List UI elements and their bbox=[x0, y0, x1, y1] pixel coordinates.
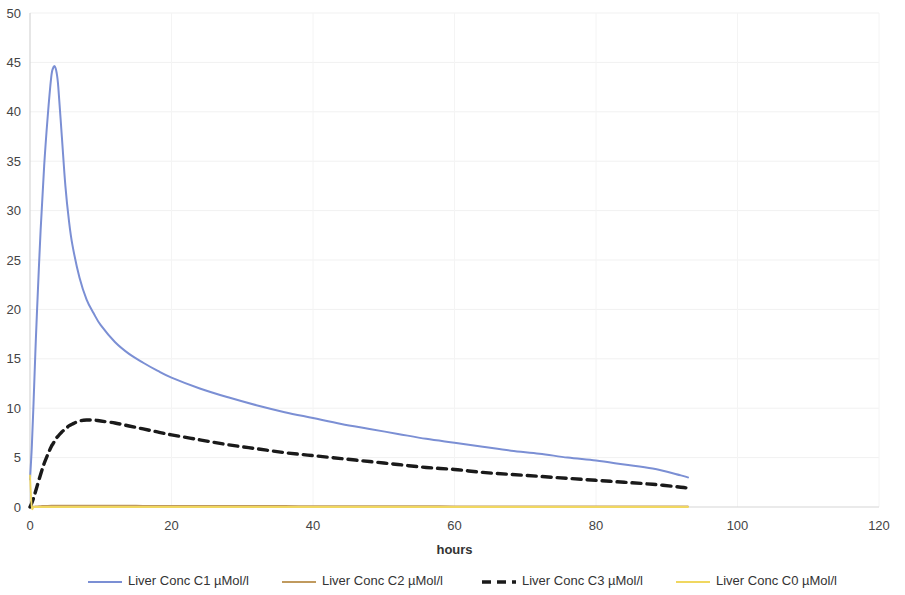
y-tick-label: 15 bbox=[7, 351, 21, 366]
y-tick-label: 10 bbox=[7, 401, 21, 416]
x-tick-label: 100 bbox=[727, 518, 749, 533]
legend-label: Liver Conc C1 µMol/l bbox=[128, 573, 249, 588]
y-tick-label: 30 bbox=[7, 203, 21, 218]
y-tick-label: 20 bbox=[7, 302, 21, 317]
x-tick-label: 60 bbox=[447, 518, 461, 533]
chart-canvas: 05101520253035404550 020406080100120 hou… bbox=[0, 0, 905, 595]
x-axis-title: hours bbox=[436, 542, 472, 557]
x-tick-label: 0 bbox=[26, 518, 33, 533]
legend-label: Liver Conc C0 µMol/l bbox=[716, 573, 837, 588]
x-tick-label: 20 bbox=[164, 518, 178, 533]
y-tick-label: 35 bbox=[7, 154, 21, 169]
y-tick-label: 45 bbox=[7, 55, 21, 70]
y-tick-label: 5 bbox=[14, 450, 21, 465]
legend-label: Liver Conc C3 µMol/l bbox=[522, 573, 643, 588]
x-tick-label: 120 bbox=[868, 518, 890, 533]
x-tick-label: 40 bbox=[306, 518, 320, 533]
y-tick-label: 40 bbox=[7, 104, 21, 119]
y-tick-label: 25 bbox=[7, 253, 21, 268]
x-tick-label: 80 bbox=[589, 518, 603, 533]
y-tick-label: 0 bbox=[14, 500, 21, 515]
x-axis-title-text: hours bbox=[436, 542, 472, 557]
legend-label: Liver Conc C2 µMol/l bbox=[322, 573, 443, 588]
liver-concentration-chart: 05101520253035404550 020406080100120 hou… bbox=[0, 0, 905, 595]
y-tick-label: 50 bbox=[7, 6, 21, 21]
